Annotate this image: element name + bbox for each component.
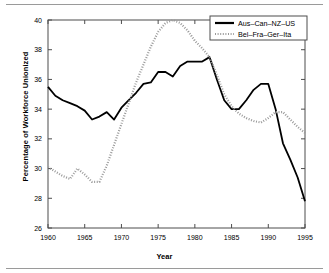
x-tick-label-1980: 1980 <box>187 234 203 241</box>
x-tick-label-1995: 1995 <box>297 234 313 241</box>
y-tick-label-38: 38 <box>34 46 42 53</box>
x-tick-label-1975: 1975 <box>150 234 166 241</box>
y-tick-label-26: 26 <box>34 225 42 232</box>
y-tick-label-34: 34 <box>34 106 42 113</box>
y-tick-label-32: 32 <box>34 135 42 142</box>
line-chart: 2628303234363840196019651970197519801985… <box>0 0 329 273</box>
series-line-1 <box>48 57 305 201</box>
x-tick-label-1970: 1970 <box>114 234 130 241</box>
x-axis-title: Year <box>0 252 329 261</box>
plot-area: 2628303234363840196019651970197519801985… <box>0 0 329 273</box>
y-tick-label-28: 28 <box>34 195 42 202</box>
figure-container: 2628303234363840196019651970197519801985… <box>0 0 329 273</box>
y-tick-label-30: 30 <box>34 165 42 172</box>
x-tick-label-1990: 1990 <box>260 234 276 241</box>
series-line-2 <box>48 20 305 182</box>
x-tick-label-1965: 1965 <box>77 234 93 241</box>
y-tick-label-40: 40 <box>34 17 42 24</box>
legend-label-2: Bel–Fra–Ger–Ita <box>238 30 291 39</box>
axis-box <box>48 20 305 228</box>
y-tick-label-36: 36 <box>34 76 42 83</box>
x-tick-label-1985: 1985 <box>224 234 240 241</box>
x-tick-label-1960: 1960 <box>40 234 56 241</box>
legend-label-1: Aus–Can–NZ–US <box>238 19 295 28</box>
y-axis-title: Percentage of Workforce Unionized <box>21 47 30 187</box>
